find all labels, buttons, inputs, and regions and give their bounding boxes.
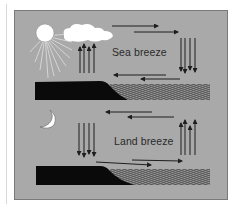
surface-flow-arrow	[96, 162, 151, 165]
rising-air-arrows	[80, 44, 94, 73]
surface-flow-arrow	[132, 160, 182, 161]
moon-icon	[40, 110, 55, 128]
land	[35, 81, 128, 100]
sun-icon	[36, 24, 54, 42]
rising-air-arrows	[181, 120, 195, 155]
sun-rays-icon	[30, 34, 72, 78]
sea-breeze-label: Sea breeze	[112, 46, 167, 58]
sinking-air-arrows	[181, 38, 195, 73]
sea	[110, 84, 210, 100]
breeze-diagram	[0, 0, 241, 212]
cloud-icon	[64, 24, 113, 42]
land-breeze-label: Land breeze	[114, 135, 173, 147]
sinking-air-arrows	[79, 123, 94, 157]
sea-breeze-panel	[30, 24, 210, 100]
land-breeze-panel	[36, 110, 210, 185]
